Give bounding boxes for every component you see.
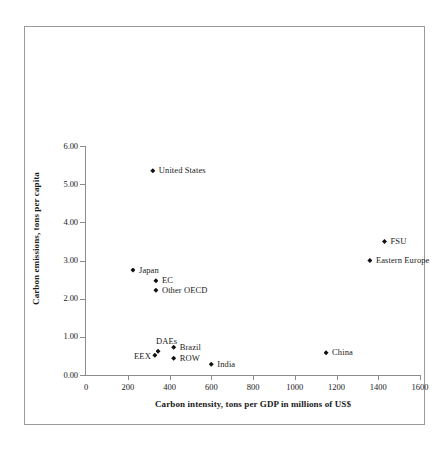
data-point-label: EEX <box>134 351 151 361</box>
data-point-label: Other OECD <box>162 285 208 295</box>
data-point-label: Brazil <box>180 342 201 352</box>
y-tick-label: 0.00 <box>40 371 78 380</box>
diamond-marker-icon <box>171 356 176 361</box>
diamond-marker-icon <box>153 278 158 283</box>
x-tick-label: 1400 <box>358 383 398 392</box>
x-tick-label: 400 <box>150 383 190 392</box>
diamond-marker-icon <box>367 258 372 263</box>
y-tick-label: 2.00 <box>40 294 78 303</box>
x-tick-label: 600 <box>191 383 231 392</box>
x-tick-mark <box>170 375 171 380</box>
x-tick-mark <box>253 375 254 380</box>
y-tick-mark <box>80 337 85 338</box>
x-tick-mark <box>211 375 212 380</box>
x-tick-mark <box>378 375 379 380</box>
diamond-marker-icon <box>209 362 214 367</box>
data-point-label: India <box>217 359 235 369</box>
diamond-marker-icon <box>153 288 158 293</box>
data-point-label: Eastern Europe <box>376 255 430 265</box>
diamond-marker-icon <box>130 268 135 273</box>
x-tick-label: 1000 <box>275 383 315 392</box>
x-tick-label: 1200 <box>317 383 357 392</box>
diamond-marker-icon <box>324 350 329 355</box>
x-tick-label: 800 <box>233 383 273 392</box>
x-tick-mark <box>420 375 421 380</box>
y-tick-label: 3.00 <box>40 256 78 265</box>
y-tick-label: 1.00 <box>40 332 78 341</box>
y-tick-mark <box>80 375 85 376</box>
y-tick-label: 6.00 <box>40 142 78 151</box>
y-tick-mark <box>80 299 85 300</box>
data-point-label: ROW <box>180 353 200 363</box>
x-tick-label: 1600 <box>400 383 440 392</box>
plot-area: United StatesFSUEastern EuropeJapanECOth… <box>86 146 420 375</box>
data-point-label: United States <box>159 165 206 175</box>
diamond-marker-icon <box>156 349 161 354</box>
data-point-label: Japan <box>139 265 159 275</box>
x-tick-mark <box>128 375 129 380</box>
data-point-label: FSU <box>391 236 407 246</box>
x-axis-title: Carbon intensity, tons per GDP in millio… <box>86 399 420 410</box>
diamond-marker-icon <box>382 239 387 244</box>
x-tick-label: 200 <box>108 383 148 392</box>
diamond-marker-icon <box>152 353 157 358</box>
data-point-label: DAEs <box>156 336 177 346</box>
x-tick-mark <box>295 375 296 380</box>
scatter-chart-figure: 0.001.002.003.004.005.006.00 02004006008… <box>0 0 446 452</box>
y-tick-mark <box>80 222 85 223</box>
data-point-label: EC <box>162 275 173 285</box>
data-point-label: China <box>332 347 353 357</box>
x-tick-mark <box>337 375 338 380</box>
x-tick-label: 0 <box>66 383 106 392</box>
y-tick-label: 4.00 <box>40 218 78 227</box>
y-axis-title: Carbon emissions, tons per capita <box>31 139 42 339</box>
diamond-marker-icon <box>150 168 155 173</box>
y-tick-mark <box>80 184 85 185</box>
y-tick-mark <box>80 261 85 262</box>
y-tick-mark <box>80 146 85 147</box>
y-tick-label: 5.00 <box>40 180 78 189</box>
